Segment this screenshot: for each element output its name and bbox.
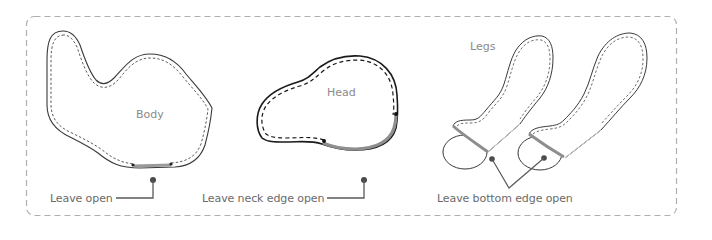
body-label: Body	[136, 109, 164, 120]
body-open-edge	[134, 165, 171, 166]
body-open-start-dot	[131, 163, 134, 166]
head-label: Head	[327, 87, 356, 98]
head-instruction: Leave neck edge open	[202, 193, 324, 204]
head-outline	[257, 56, 398, 150]
body-open-end-dot	[169, 162, 172, 165]
legs-leader-line	[492, 158, 544, 188]
body-stitch-line	[51, 35, 208, 164]
legs-piece	[443, 33, 647, 188]
body-leader-line	[116, 180, 153, 198]
legs-label: Legs	[470, 41, 495, 52]
head-open-end-dot	[394, 112, 398, 116]
head-piece	[257, 56, 398, 198]
head-open-start-dot	[322, 139, 326, 143]
body-piece	[47, 31, 212, 198]
left-leg	[443, 36, 553, 169]
legs-instruction: Leave bottom edge open	[437, 193, 573, 204]
head-stitch-line	[262, 60, 394, 140]
head-leader-line	[327, 180, 364, 198]
body-outline	[47, 31, 212, 168]
body-instruction: Leave open	[50, 193, 113, 204]
